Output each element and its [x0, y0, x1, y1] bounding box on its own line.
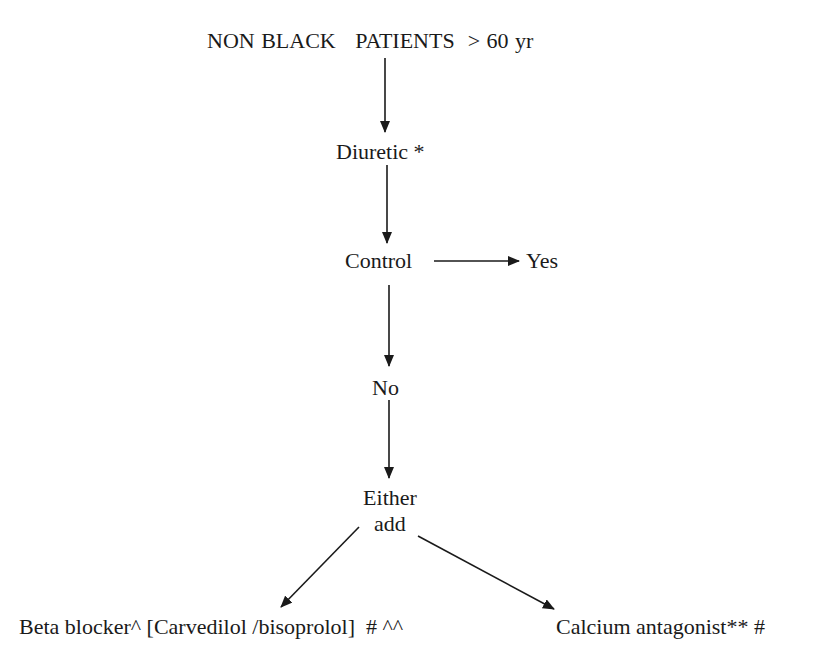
- beta-blocker-label: Beta blocker^ [Carvedilol /bisoprolol] #…: [19, 614, 403, 639]
- node-start: NON BLACK PATIENTS > 60 yr: [207, 28, 533, 54]
- add-label: add: [340, 511, 440, 537]
- calcium-antagonist-label: Calcium antagonist** #: [556, 614, 765, 639]
- node-diuretic: Diuretic *: [336, 139, 425, 165]
- node-calcium-antagonist: Calcium antagonist** #: [556, 614, 765, 640]
- node-beta-blocker: Beta blocker^ [Carvedilol /bisoprolol] #…: [19, 614, 403, 640]
- node-no: No: [372, 375, 399, 401]
- node-control: Control: [345, 248, 412, 274]
- arrow-either-to-beta-blocker: [281, 527, 359, 607]
- node-yes: Yes: [526, 248, 558, 274]
- arrow-either-to-calcium: [418, 536, 554, 609]
- start-label: NON BLACK PATIENTS > 60 yr: [207, 28, 533, 53]
- node-either-add: Either add: [340, 485, 440, 537]
- no-label: No: [372, 375, 399, 400]
- control-label: Control: [345, 248, 412, 273]
- arrows-layer: [0, 0, 837, 657]
- either-label: Either: [340, 485, 440, 511]
- diuretic-label: Diuretic *: [336, 139, 425, 164]
- yes-label: Yes: [526, 248, 558, 273]
